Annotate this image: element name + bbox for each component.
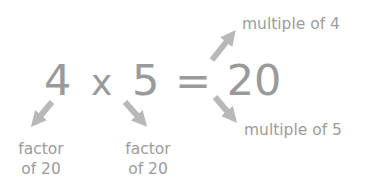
label-factor-middle: factor of 20 [121,139,175,179]
times-sign: x [91,62,112,103]
equals-sign: = [175,55,211,105]
label-multiple-of-4: multiple of 4 [242,14,340,34]
product: 20 [227,55,282,105]
label-multiple-of-5: multiple of 5 [244,120,342,140]
factor-left-line1: factor [14,139,68,159]
right-factor: 5 [132,55,159,105]
equation: 4 x 5 = 20 [44,55,281,105]
factor-left-line2: of 20 [14,159,68,179]
label-factor-left: factor of 20 [14,139,68,179]
factor-middle-line1: factor [121,139,175,159]
left-factor: 4 [44,55,71,105]
factor-middle-line2: of 20 [121,159,175,179]
